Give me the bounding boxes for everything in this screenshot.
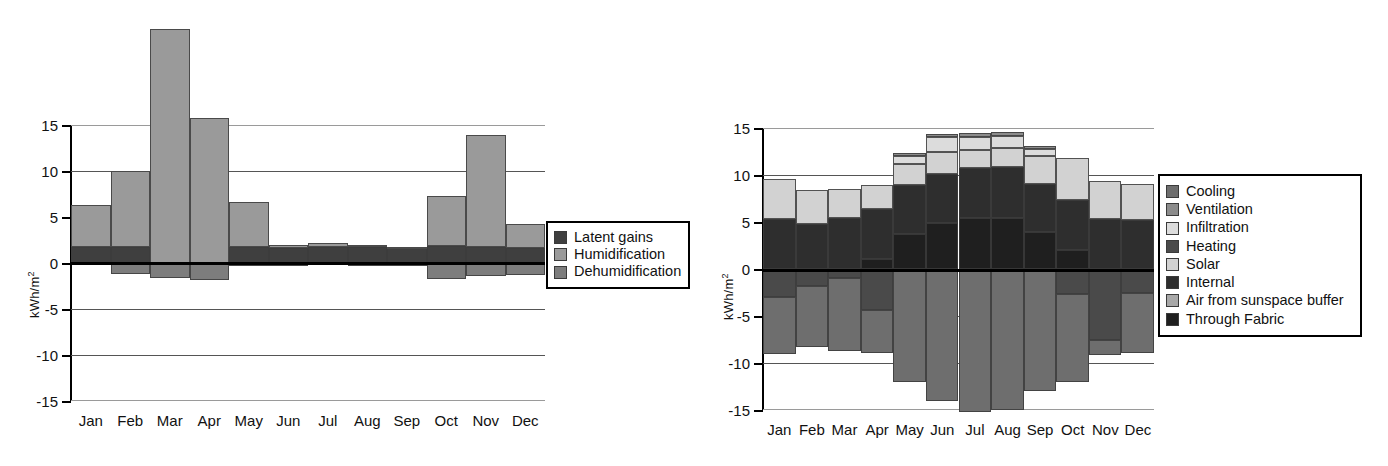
bar-segment-cooling [796,286,829,347]
bar-segment-internal [796,224,829,269]
legend-item-through-fabric[interactable]: Through Fabric [1166,312,1353,327]
x-tick-dec-right: Dec [1122,421,1155,438]
legend-item-air-from-sunspace-buffer[interactable]: Air from sunspace buffer [1166,293,1353,308]
legend-label: Through Fabric [1186,312,1284,327]
bar-segment-internal [1056,200,1089,250]
x-tick-sep-right: Sep [1024,421,1057,438]
bar-segment-cooling [1056,294,1089,381]
legend-label: Solar [1186,257,1220,272]
legend-label: Heating [1186,239,1236,254]
bar-segment-latent-gains [466,247,506,263]
bar-segment-latent-gains [229,247,269,263]
legend-item-ventilation[interactable]: Ventilation [1166,202,1353,217]
bar-segment-cooling [991,269,1024,410]
legend-item-heating[interactable]: Heating [1166,239,1353,254]
legend-right: Cooling Ventilation Infiltration Heating… [1158,174,1362,337]
legend-item-humidification[interactable]: Humidification [554,247,681,262]
bar-segment-dehumidification [190,263,230,280]
legend-item-solar[interactable]: Solar [1166,257,1353,272]
x-tick-jun-right: Jun [926,421,959,438]
bar-segment-solar [796,190,829,224]
bar-segment-cooling [861,310,894,352]
x-tick-may-left: May [229,412,269,429]
legend-swatch-icon [1166,294,1179,307]
bar-segment-internal [1089,219,1122,269]
legend-left: Latent gains Humidification Dehumidifica… [546,221,690,289]
bar-segment-latent-gains [427,246,467,263]
bar-segment-solar [1024,156,1057,184]
bar-segment-infiltration [1024,149,1057,157]
bar-segment-cooling [828,278,861,350]
bar-segment-humidification [269,245,309,248]
legend-label: Cooling [1186,184,1235,199]
bar-segment-solar [828,189,861,218]
y-tick-15-right: 15 [722,120,750,137]
latent-loads-chart: kWh/m2 15 10 5 0 -5 -10 -15 Jan Feb M [0,0,694,466]
y-tick-5-left: 5 [30,209,58,226]
legend-item-dehumidification[interactable]: Dehumidification [554,264,681,279]
legend-label: Ventilation [1186,202,1253,217]
figure-root: kWh/m2 15 10 5 0 -5 -10 -15 Jan Feb M [0,0,1388,466]
bar-segment-cooling [893,269,926,382]
bar-segment-ventilation [991,132,1024,137]
tickmark [62,401,71,403]
bar-segment-humidification [229,202,269,247]
legend-swatch-icon [1166,203,1179,216]
y-tick-neg5-left: -5 [30,301,58,318]
bar-segment-infiltration [893,156,926,164]
bar-segment-through-fabric [1056,250,1089,269]
bar-segment-humidification [71,205,111,247]
plot-area-left [71,125,545,401]
tickmark [754,410,763,412]
bar-segment-humidification [387,247,427,249]
legend-swatch-icon [1166,276,1179,289]
bar-segment-internal [959,168,992,218]
bar-segment-through-fabric [991,218,1024,269]
bar-segment-dehumidification [150,263,190,278]
legend-item-internal[interactable]: Internal [1166,275,1353,290]
bar-segment-internal [991,167,1024,218]
bar-segment-internal [1121,220,1154,269]
bar-segment-dehumidification [427,263,467,279]
zero-line-right [763,269,1154,272]
x-tick-may-right: May [893,421,926,438]
bar-segment-cooling [763,297,796,353]
legend-item-cooling[interactable]: Cooling [1166,184,1353,199]
bar-segment-humidification [111,171,151,247]
legend-item-latent-gains[interactable]: Latent gains [554,230,681,245]
plot-area-right [763,128,1154,410]
x-tick-feb-left: Feb [111,412,151,429]
bar-segment-cooling [926,269,959,401]
legend-swatch-icon [1166,258,1179,271]
bar-segment-ventilation [959,133,992,138]
legend-item-infiltration[interactable]: Infiltration [1166,220,1353,235]
legend-label: Air from sunspace buffer [1186,293,1344,308]
bar-segment-internal [1024,184,1057,232]
y-tick-5-right: 5 [722,214,750,231]
bar-segment-solar [991,148,1024,168]
x-tick-jan-left: Jan [71,412,111,429]
x-tick-jan-right: Jan [763,421,796,438]
bar-segment-latent-gains [348,247,388,263]
y-tick-neg5-right: -5 [722,308,750,325]
legend-swatch-icon [554,248,567,261]
y-tick-neg10-left: -10 [30,347,58,364]
bar-segment-humidification [348,245,388,247]
bar-segment-latent-gains [71,247,111,263]
x-tick-nov-left: Nov [466,412,506,429]
y-tick-neg15-right: -15 [722,402,750,419]
bar-segment-through-fabric [926,223,959,269]
bar-segment-ventilation [926,134,959,138]
bar-segment-latent-gains [387,248,427,263]
y-tick-0-right: 0 [722,261,750,278]
bar-segment-solar [959,150,992,169]
legend-swatch-icon [1166,222,1179,235]
legend-label: Latent gains [574,230,653,245]
x-tick-oct-right: Oct [1056,421,1089,438]
x-tick-jun-left: Jun [269,412,309,429]
bar-segment-heating [1121,269,1154,293]
x-tick-jul-right: Jul [959,421,992,438]
bar-segment-latent-gains [506,248,546,263]
bar-segment-infiltration [926,137,959,152]
bar-segment-infiltration [991,136,1024,147]
